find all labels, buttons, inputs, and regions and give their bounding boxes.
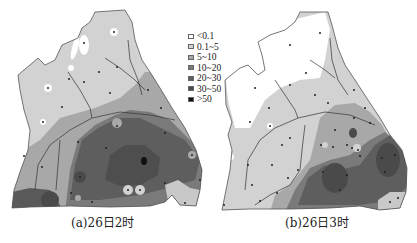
legend-label: >50 [197,94,212,105]
caption-panel-a: (a)26日2时 [71,213,134,230]
legend-swatch [188,34,194,39]
precipitation-map-b [210,0,417,212]
legend-label: <0.1 [197,31,214,42]
legend-swatch [188,86,194,91]
legend-label: 20~30 [197,73,221,84]
legend-swatch [188,76,194,81]
legend-item-gt50: >50 [188,94,221,105]
legend-label: 10~20 [197,63,221,74]
legend-swatch [188,55,194,60]
legend-item-lt0.1: <0.1 [188,31,221,42]
legend-swatch [188,44,194,49]
legend-label: 5~10 [197,52,216,63]
precipitation-map-a [0,0,210,212]
legend-item-0.1-5: 0.1~5 [188,42,221,53]
legend-item-5-10: 5~10 [188,52,221,63]
legend-swatch [188,65,194,70]
caption-panel-b: (b)26日3时 [285,213,349,230]
legend: <0.1 0.1~5 5~10 10~20 20~30 30~50 >50 [188,31,221,105]
legend-label: 0.1~5 [197,42,219,53]
legend-item-30-50: 30~50 [188,84,221,95]
legend-swatch [188,97,194,102]
legend-item-10-20: 10~20 [188,63,221,74]
legend-label: 30~50 [197,84,221,95]
legend-item-20-30: 20~30 [188,73,221,84]
